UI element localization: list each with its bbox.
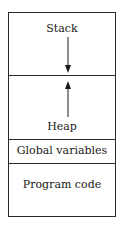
global-variables-label: Global variables — [9, 145, 115, 157]
heap-segment: Heap — [9, 76, 115, 140]
program-code-label: Program code — [9, 179, 115, 191]
memory-layout-diagram: Stack Heap Global variables Program code — [8, 12, 116, 217]
global-variables-segment: Global variables — [9, 140, 115, 164]
arrow-down-icon — [9, 13, 115, 76]
stack-segment: Stack — [9, 13, 115, 76]
program-code-segment: Program code — [9, 164, 115, 216]
heap-label: Heap — [9, 121, 115, 133]
